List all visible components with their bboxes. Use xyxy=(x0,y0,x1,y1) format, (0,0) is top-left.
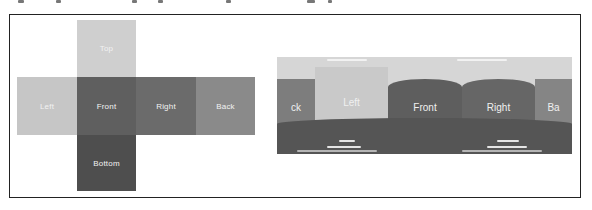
text-fragment xyxy=(18,0,24,3)
band-label: Ba xyxy=(547,102,559,113)
face-label: Front xyxy=(97,102,117,111)
panorama-floor xyxy=(277,118,572,154)
top-distortion-line xyxy=(327,59,367,61)
face-label: Right xyxy=(156,102,176,111)
face-label: Left xyxy=(40,102,54,111)
face-right: Right xyxy=(136,77,196,135)
band-label: ck xyxy=(291,102,301,113)
text-fragment xyxy=(226,0,231,3)
bottom-distortion-line xyxy=(297,150,377,152)
bottom-distortion-line xyxy=(339,140,355,142)
bottom-distortion-line xyxy=(462,150,542,152)
panorama-view: ck Left Front Right Ba xyxy=(277,57,572,154)
top-distortion-line xyxy=(457,59,507,61)
face-front: Front xyxy=(77,77,136,135)
band-label: Left xyxy=(343,97,360,108)
face-bottom: Bottom xyxy=(77,135,136,191)
face-label: Back xyxy=(216,102,235,111)
face-left: Left xyxy=(17,77,77,135)
text-fragment xyxy=(56,0,61,3)
text-fragment xyxy=(328,0,332,3)
text-fragment xyxy=(307,0,315,3)
text-fragment xyxy=(158,0,163,3)
face-top: Top xyxy=(77,20,136,77)
face-label: Top xyxy=(100,44,114,53)
band-label: Front xyxy=(413,102,436,113)
bottom-distortion-line xyxy=(327,146,361,148)
band-label: Right xyxy=(487,102,510,113)
bottom-distortion-line xyxy=(497,140,519,142)
bottom-distortion-line xyxy=(487,146,527,148)
text-fragment xyxy=(132,0,137,3)
face-back: Back xyxy=(196,77,255,135)
clipped-caption-fragments xyxy=(0,0,592,4)
face-label: Bottom xyxy=(93,159,120,168)
